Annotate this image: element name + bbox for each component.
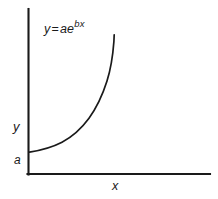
equation-base: ae [60, 22, 74, 36]
equation-exponent: bx [74, 18, 84, 29]
y-intercept-label: a [14, 154, 21, 166]
equation-annotation: y=aebx [44, 20, 85, 36]
plot-canvas [0, 0, 218, 199]
exponential-curve-figure: y=aebx y a x [0, 0, 218, 199]
figure-background [0, 0, 218, 199]
equation-operator: = [50, 22, 60, 36]
y-axis-label: y [13, 120, 20, 133]
x-axis-label: x [112, 180, 118, 193]
